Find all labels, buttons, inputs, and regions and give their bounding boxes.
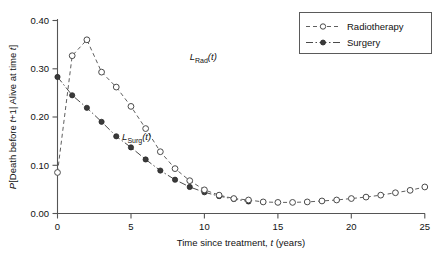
data-point [275, 200, 281, 206]
x-tick-label: 15 [273, 221, 284, 232]
radiotherapy-markers [55, 37, 428, 205]
series-radiotherapy [55, 37, 428, 205]
legend-marker-open-circle [320, 24, 325, 29]
data-point [202, 187, 208, 193]
y-tick-label: 0.30 [31, 63, 50, 74]
data-point [114, 134, 119, 139]
data-point [128, 103, 134, 109]
data-point [84, 105, 89, 110]
legend: Radiotherapy Surgery [300, 13, 432, 54]
data-point [422, 184, 428, 190]
data-point [143, 157, 148, 162]
x-tick-group: 0 5 10 15 20 25 [55, 214, 430, 233]
y-tick-label: 0.10 [31, 160, 50, 171]
data-point [172, 177, 177, 182]
rad-curve-label: LRad(t) [190, 51, 217, 64]
x-tick-label: 0 [55, 221, 60, 232]
x-axis-title: Time since treatment, t (years) [177, 237, 305, 248]
data-point [55, 74, 60, 79]
data-point [187, 184, 192, 189]
y-tick-label: 0.40 [31, 15, 50, 26]
data-point [84, 37, 90, 43]
data-point [157, 149, 163, 155]
data-point [172, 166, 178, 172]
data-point [55, 170, 61, 176]
data-point [363, 194, 369, 200]
legend-label-radiotherapy: Radiotherapy [347, 21, 404, 32]
figure-container: 0.00 0.10 0.20 0.30 0.40 0 5 10 15 20 25… [0, 0, 445, 273]
x-tick-label: 20 [346, 221, 357, 232]
data-point [348, 196, 354, 202]
data-point [334, 197, 340, 203]
data-point [99, 119, 104, 124]
data-point [187, 178, 193, 184]
data-point [407, 187, 413, 193]
x-tick-label: 25 [420, 221, 431, 232]
data-point [231, 196, 237, 202]
data-point [319, 198, 325, 204]
surgery-line [58, 77, 249, 201]
data-point [70, 93, 75, 98]
surg-curve-label: LSurg(t) [122, 131, 151, 145]
data-point [378, 192, 384, 198]
data-point [290, 200, 296, 206]
y-tick-label: 0.20 [31, 111, 50, 122]
x-tick-label: 5 [128, 221, 133, 232]
data-point [158, 168, 163, 173]
data-point [246, 197, 252, 203]
data-point [69, 53, 75, 59]
legend-marker-filled-circle [321, 40, 326, 45]
data-point [260, 199, 266, 205]
chart-canvas: 0.00 0.10 0.20 0.30 0.40 0 5 10 15 20 25… [0, 0, 445, 273]
data-point [304, 199, 310, 205]
x-tick-label: 10 [199, 221, 210, 232]
radiotherapy-line [58, 40, 425, 203]
data-point [393, 190, 399, 196]
y-axis-title: P[Death before t+1| Alive at time t] [7, 45, 18, 189]
data-point [99, 69, 105, 75]
y-tick-label: 0.00 [31, 208, 50, 219]
surgery-markers [55, 74, 251, 204]
legend-label-surgery: Surgery [347, 37, 381, 48]
series-surgery [55, 74, 251, 204]
y-tick-group: 0.00 0.10 0.20 0.30 0.40 [31, 15, 58, 219]
data-point [113, 84, 119, 90]
data-point [128, 145, 133, 150]
data-point [216, 192, 222, 198]
